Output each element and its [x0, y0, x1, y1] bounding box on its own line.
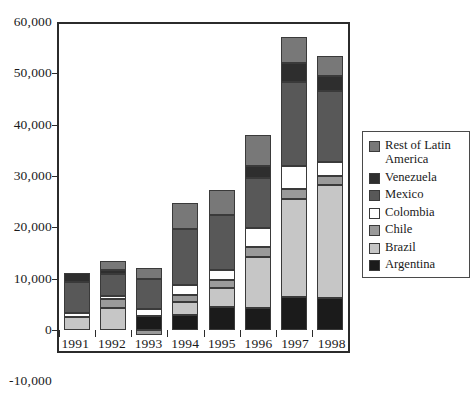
x-axis-tick-label: 1996 [240, 336, 277, 358]
bar-segment-chile[interactable] [281, 189, 307, 199]
y-axis-tick-label: 30,000 [14, 168, 52, 184]
bar-segment-mexico[interactable] [172, 229, 198, 285]
y-axis-tick-label: -10,000 [9, 373, 52, 389]
bar-stack[interactable] [64, 24, 90, 330]
bar-stack[interactable] [317, 24, 343, 330]
legend-swatch-icon [369, 208, 380, 219]
bar-segment-colombia[interactable] [317, 162, 343, 176]
bar-segment-brazil[interactable] [245, 257, 271, 309]
bar-segment-venezuela[interactable] [64, 273, 90, 282]
bar-segment-chile[interactable] [317, 176, 343, 185]
bar-segment-chile[interactable] [100, 299, 126, 308]
bar-segment-colombia[interactable] [245, 228, 271, 247]
plot-area [59, 24, 348, 330]
bar-segment-colombia[interactable] [209, 270, 235, 280]
legend-swatch-icon [369, 260, 380, 271]
chart-legend: Rest of Latin AmericaVenezuelaMexicoColo… [362, 131, 470, 278]
legend-item[interactable]: Venezuela [369, 170, 464, 184]
bar-segment-brazil[interactable] [64, 317, 90, 330]
legend-swatch-icon [369, 190, 380, 201]
bar-stack[interactable] [136, 24, 162, 330]
x-axis-tick-label: 1998 [313, 336, 350, 358]
legend-swatch-icon [369, 243, 380, 254]
legend-swatch-icon [369, 141, 380, 152]
bar-segment-mexico[interactable] [281, 82, 307, 166]
legend-label: Chile [385, 222, 412, 236]
bar-segment-brazil[interactable] [281, 199, 307, 297]
x-axis-labels: 19911992199319941995199619971998 [57, 336, 350, 358]
bar-stack[interactable] [245, 24, 271, 330]
bar-segment-chile[interactable] [136, 330, 162, 335]
bar-segment-venezuela[interactable] [245, 166, 271, 178]
y-axis-labels: 60,00050,00040,00030,00020,00010,0000-10… [0, 0, 52, 394]
bar-stack[interactable] [281, 24, 307, 330]
bar-segment-argentina[interactable] [317, 298, 343, 330]
bar-segment-chile[interactable] [209, 280, 235, 288]
bar-segment-mexico[interactable] [317, 91, 343, 161]
x-axis-tick-label: 1991 [57, 336, 94, 358]
bar-segment-mexico[interactable] [64, 282, 90, 313]
chart-canvas: 60,00050,00040,00030,00020,00010,0000-10… [0, 0, 476, 394]
legend-item[interactable]: Chile [369, 222, 464, 236]
legend-item[interactable]: Rest of Latin America [369, 138, 464, 166]
legend-item[interactable]: Brazil [369, 240, 464, 254]
bar-segment-mexico[interactable] [245, 178, 271, 228]
legend-label: Colombia [385, 205, 435, 219]
bar-segment-colombia[interactable] [281, 166, 307, 189]
legend-item[interactable]: Mexico [369, 187, 464, 201]
bar-segment-brazil[interactable] [172, 302, 198, 314]
x-axis-tick-label: 1994 [167, 336, 204, 358]
bar-segment-brazil[interactable] [317, 185, 343, 298]
bar-segment-rest-of-latin-america[interactable] [245, 135, 271, 166]
bar-segment-brazil[interactable] [209, 288, 235, 307]
bar-segment-colombia[interactable] [64, 313, 90, 317]
bar-segment-argentina[interactable] [245, 308, 271, 330]
bar-segment-chile[interactable] [245, 247, 271, 257]
bar-segment-colombia[interactable] [136, 309, 162, 315]
bar-segment-rest-of-latin-america[interactable] [281, 37, 307, 63]
bar-segment-argentina[interactable] [281, 297, 307, 330]
bar-segment-rest-of-latin-america[interactable] [317, 56, 343, 76]
y-axis-tick-label: 20,000 [14, 219, 52, 235]
bar-segment-argentina[interactable] [136, 316, 162, 330]
bar-segment-rest-of-latin-america[interactable] [100, 261, 126, 270]
legend-label: Argentina [385, 257, 435, 271]
legend-label: Brazil [385, 240, 416, 254]
bar-segment-mexico[interactable] [209, 215, 235, 270]
legend-swatch-icon [369, 173, 380, 184]
bar-stack[interactable] [172, 24, 198, 330]
y-axis-tick-label: 40,000 [14, 117, 52, 133]
legend-item[interactable]: Argentina [369, 257, 464, 271]
bar-segment-colombia[interactable] [172, 285, 198, 294]
bar-segment-colombia[interactable] [100, 296, 126, 300]
bar-segment-rest-of-latin-america[interactable] [209, 190, 235, 215]
bar-stack[interactable] [209, 24, 235, 330]
bar-segment-rest-of-latin-america[interactable] [172, 203, 198, 229]
legend-label: Rest of Latin America [385, 138, 464, 166]
bar-stack[interactable] [100, 24, 126, 330]
x-axis-tick-label: 1997 [277, 336, 314, 358]
bar-segment-rest-of-latin-america[interactable] [136, 268, 162, 279]
bar-segment-venezuela[interactable] [281, 63, 307, 82]
bar-segment-argentina[interactable] [172, 315, 198, 330]
x-axis-tick-label: 1995 [204, 336, 241, 358]
bar-segment-argentina[interactable] [209, 307, 235, 330]
bar-segment-chile[interactable] [172, 295, 198, 303]
legend-swatch-icon [369, 225, 380, 236]
y-axis-tick-label: 0 [45, 322, 52, 338]
bar-segment-mexico[interactable] [100, 274, 126, 296]
x-axis-tick-label: 1993 [130, 336, 167, 358]
legend-label: Mexico [385, 187, 423, 201]
bar-series-container [59, 24, 348, 330]
legend-item[interactable]: Colombia [369, 205, 464, 219]
x-axis-tick-label: 1992 [94, 336, 131, 358]
legend-label: Venezuela [385, 170, 437, 184]
bar-segment-mexico[interactable] [136, 279, 162, 310]
bar-segment-venezuela[interactable] [317, 76, 343, 91]
bar-segment-brazil[interactable] [100, 308, 126, 330]
y-axis-tick-label: 10,000 [14, 271, 52, 287]
bar-segment-venezuela[interactable] [100, 270, 126, 274]
y-axis-tick-label: 60,000 [14, 14, 52, 30]
y-axis-tick-label: 50,000 [14, 65, 52, 81]
